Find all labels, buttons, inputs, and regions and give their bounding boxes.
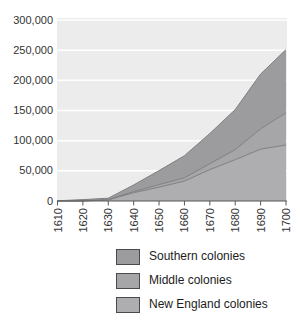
y-tick-label: 250,000	[13, 44, 53, 56]
x-tick-label: 1680	[229, 208, 241, 232]
southern-colonies-label: Southern colonies	[149, 249, 245, 264]
x-tick-label: 1640	[128, 208, 140, 232]
x-tick-label: 1690	[255, 208, 267, 232]
y-tick-label: 150,000	[13, 104, 53, 116]
y-tick-label: 0	[47, 195, 53, 207]
y-tick-label: 50,000	[19, 164, 53, 176]
y-tick-label: 200,000	[13, 74, 53, 86]
legend-item-new-england: New England colonies	[116, 297, 268, 312]
southern-colonies-swatch	[116, 249, 140, 265]
new-england-colonies-swatch	[116, 297, 140, 313]
x-tick-label: 1700	[280, 208, 292, 232]
chart-legend: Southern colonies Middle colonies New En…	[116, 249, 268, 312]
colonial-population-chart-page: 1610162016301640165016601670168016901700…	[0, 0, 300, 322]
y-tick-label: 300,000	[13, 14, 53, 26]
middle-colonies-label: Middle colonies	[149, 273, 232, 288]
legend-item-middle: Middle colonies	[116, 273, 268, 288]
new-england-colonies-label: New England colonies	[149, 297, 268, 312]
middle-colonies-swatch	[116, 273, 140, 289]
x-tick-label: 1630	[102, 208, 114, 232]
x-tick-label: 1670	[204, 208, 216, 232]
x-tick-label: 1650	[153, 208, 165, 232]
x-tick-label: 1620	[77, 208, 89, 232]
y-tick-label: 100,000	[13, 134, 53, 146]
stacked-area-chart: 1610162016301640165016601670168016901700…	[0, 0, 300, 240]
x-tick-label: 1610	[52, 208, 64, 232]
legend-item-southern: Southern colonies	[116, 249, 268, 264]
x-tick-label: 1660	[178, 208, 190, 232]
